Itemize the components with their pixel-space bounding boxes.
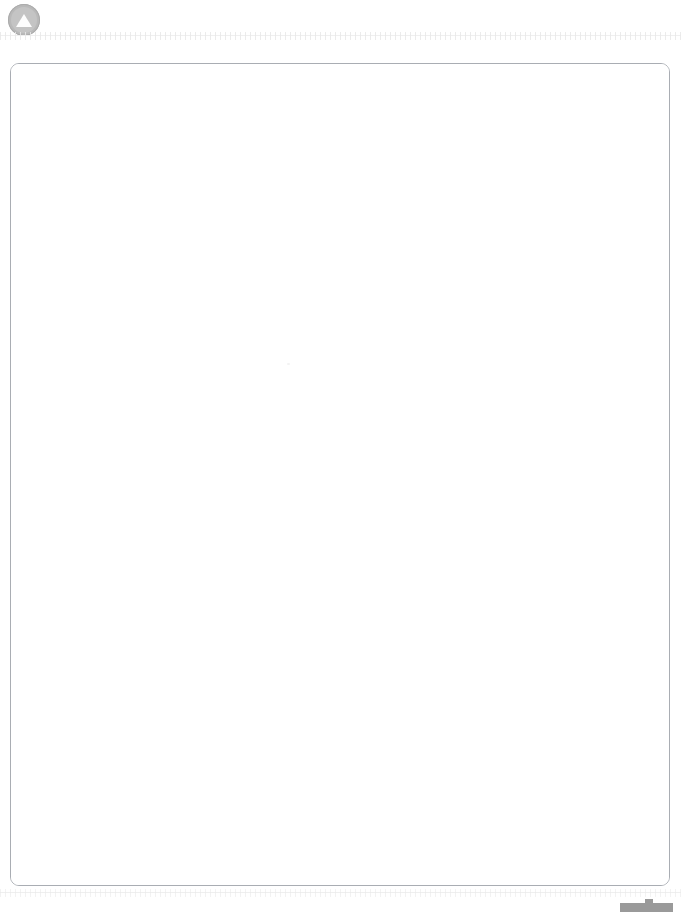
ruler-bottom-ticks [0, 889, 681, 897]
document-page-canvas [11, 64, 669, 885]
logo-triangle-glyph [16, 14, 32, 27]
bottom-right-widget[interactable] [620, 903, 673, 912]
ruler-top-ticks [0, 32, 681, 40]
document-page[interactable] [10, 63, 670, 886]
ruler-bottom [0, 889, 681, 897]
ruler-top [0, 32, 681, 40]
scan-artifact-speck [287, 363, 290, 365]
